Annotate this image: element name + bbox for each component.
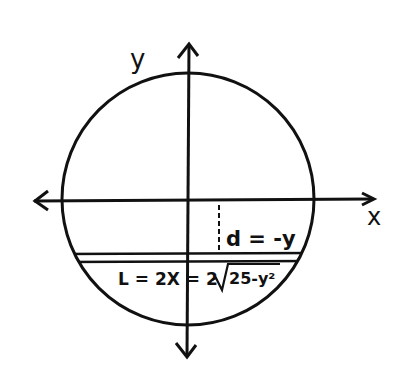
- y-axis: [187, 45, 189, 355]
- strip-bottom-line: [40, 261, 340, 262]
- circle-strip-diagram: y x d = -y L = 2X = 2 25-y²: [0, 0, 409, 388]
- depth-label: d = -y: [226, 227, 296, 251]
- sqrt-content: 25-y²: [229, 269, 275, 288]
- y-axis-label: y: [130, 44, 145, 74]
- x-axis-label: x: [367, 203, 381, 231]
- strip-top-line: [40, 253, 340, 254]
- x-axis: [34, 199, 372, 201]
- length-label: L = 2X = 2: [118, 269, 218, 289]
